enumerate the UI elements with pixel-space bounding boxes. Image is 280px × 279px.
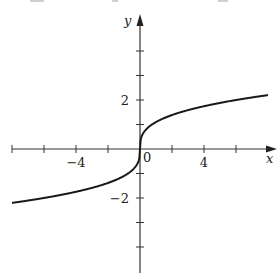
clipped-text-fragment — [30, 0, 228, 2]
function-graph: x y −4 4 0 2 −2 — [0, 0, 280, 279]
y-tick-label-neg2: −2 — [110, 191, 129, 206]
x-tick-label-neg4: −4 — [66, 155, 85, 170]
x-tick-label-4: 4 — [200, 155, 208, 170]
y-axis-arrow-icon — [137, 14, 144, 26]
y-tick-label-2: 2 — [121, 93, 129, 108]
y-axis-label: y — [123, 13, 132, 28]
x-axis-label: x — [266, 151, 274, 166]
origin-label: 0 — [143, 150, 151, 165]
